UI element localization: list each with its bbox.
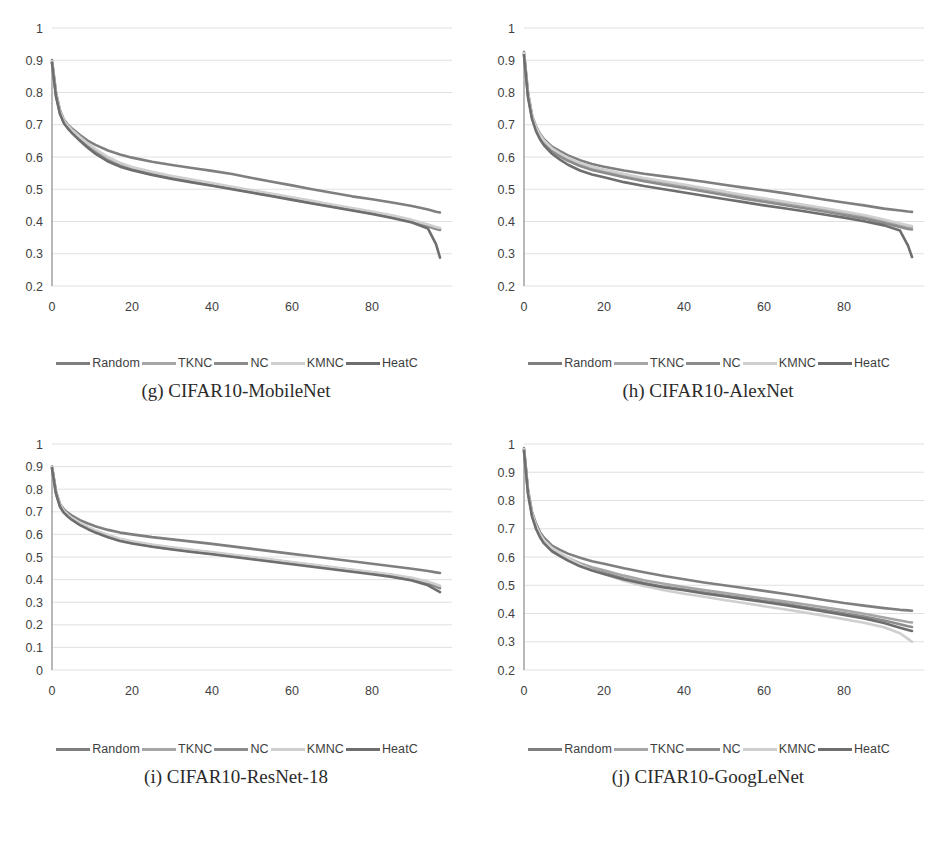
legend-item-kmnc[interactable]: KMNC — [269, 356, 344, 370]
x-tick-label: 20 — [125, 300, 139, 314]
y-tick-label: 0.2 — [26, 618, 43, 632]
legend-label: NC — [722, 356, 740, 370]
x-tick-label: 80 — [837, 684, 851, 698]
x-tick-label: 60 — [757, 684, 771, 698]
legend-item-heatc[interactable]: HeatC — [344, 356, 418, 370]
series-line-kmnc — [524, 53, 912, 226]
chart-panel-j: 0.20.30.40.50.60.70.80.91020406080Random… — [472, 426, 944, 852]
legend-line-swatch — [614, 362, 648, 365]
chart-legend-g: RandomTKNCNCKMNCHeatC — [0, 352, 472, 374]
y-tick-label: 0.7 — [26, 118, 43, 132]
y-tick-label: 0.6 — [498, 551, 515, 565]
legend-label: HeatC — [854, 742, 890, 756]
y-tick-label: 0.1 — [26, 641, 43, 655]
y-tick-label: 0.4 — [498, 215, 515, 229]
x-tick-label: 0 — [521, 684, 528, 698]
legend-item-tknc[interactable]: TKNC — [140, 356, 212, 370]
chart-legend-j: RandomTKNCNCKMNCHeatC — [472, 738, 944, 760]
y-tick-label: 0.2 — [26, 280, 43, 294]
y-tick-label: 0.2 — [498, 664, 515, 678]
legend-line-swatch — [818, 748, 852, 751]
y-tick-label: 0.6 — [26, 151, 43, 165]
x-tick-label: 40 — [677, 300, 691, 314]
legend-line-swatch — [214, 362, 248, 365]
chart-svg-j: 0.20.30.40.50.60.70.80.91020406080 — [472, 426, 944, 738]
chart-panel-h: 0.20.30.40.50.60.70.80.91020406080Random… — [472, 0, 944, 426]
y-tick-label: 0.3 — [26, 247, 43, 261]
legend-label: KMNC — [779, 742, 816, 756]
y-tick-label: 1 — [508, 438, 515, 452]
plot-area-g: 0.20.30.40.50.60.70.80.91020406080 — [0, 0, 472, 350]
y-tick-label: 0.3 — [26, 596, 43, 610]
y-tick-label: 0.9 — [26, 460, 43, 474]
y-tick-label: 0.7 — [498, 118, 515, 132]
series-line-heatc — [524, 55, 912, 257]
x-tick-label: 60 — [285, 300, 299, 314]
chart-panel-i: 00.10.20.30.40.50.60.70.80.91020406080Ra… — [0, 426, 472, 852]
figure-grid: 0.20.30.40.50.60.70.80.91020406080Random… — [0, 0, 944, 852]
legend-item-tknc[interactable]: TKNC — [612, 356, 684, 370]
legend-label: KMNC — [307, 742, 344, 756]
legend-item-nc[interactable]: NC — [684, 356, 740, 370]
x-tick-label: 80 — [365, 684, 379, 698]
y-tick-label: 0.4 — [498, 607, 515, 621]
legend-line-swatch — [528, 362, 562, 365]
legend-item-tknc[interactable]: TKNC — [140, 742, 212, 756]
chart-legend-h: RandomTKNCNCKMNCHeatC — [472, 352, 944, 374]
legend-line-swatch — [56, 362, 90, 365]
legend-line-swatch — [214, 748, 248, 751]
legend-label: Random — [92, 742, 140, 756]
legend-label: NC — [250, 356, 268, 370]
y-tick-label: 0.4 — [26, 215, 43, 229]
legend-item-nc[interactable]: NC — [212, 742, 268, 756]
gridlines: 0.20.30.40.50.60.70.80.91 — [26, 22, 452, 294]
series-group — [52, 467, 440, 592]
chart-legend-i: RandomTKNCNCKMNCHeatC — [0, 738, 472, 760]
plot-area-j: 0.20.30.40.50.60.70.80.91020406080 — [472, 426, 944, 738]
legend-line-swatch — [56, 748, 90, 751]
legend-item-heatc[interactable]: HeatC — [816, 356, 890, 370]
legend-item-kmnc[interactable]: KMNC — [741, 742, 816, 756]
legend-item-tknc[interactable]: TKNC — [612, 742, 684, 756]
legend-item-random[interactable]: Random — [54, 356, 140, 370]
series-line-nc — [524, 450, 912, 627]
legend-item-kmnc[interactable]: KMNC — [741, 356, 816, 370]
legend-label: KMNC — [779, 356, 816, 370]
legend-line-swatch — [614, 748, 648, 751]
y-tick-label: 0.6 — [498, 151, 515, 165]
legend-item-kmnc[interactable]: KMNC — [269, 742, 344, 756]
y-tick-label: 0.7 — [26, 505, 43, 519]
x-tick-label: 40 — [205, 300, 219, 314]
panel-caption-h: (h) CIFAR10-AlexNet — [472, 380, 944, 402]
legend-item-nc[interactable]: NC — [684, 742, 740, 756]
plot-area-i: 00.10.20.30.40.50.60.70.80.91020406080 — [0, 426, 472, 738]
legend-label: Random — [564, 742, 612, 756]
legend-item-heatc[interactable]: HeatC — [816, 742, 890, 756]
series-group — [524, 52, 912, 257]
legend-line-swatch — [686, 362, 720, 365]
y-tick-label: 0.6 — [26, 528, 43, 542]
legend-line-swatch — [528, 748, 562, 751]
legend-line-swatch — [346, 748, 380, 751]
y-tick-label: 0.9 — [26, 54, 43, 68]
y-tick-label: 0.5 — [498, 183, 515, 197]
legend-line-swatch — [346, 362, 380, 365]
y-tick-label: 0.7 — [498, 522, 515, 536]
y-tick-label: 0.8 — [498, 494, 515, 508]
legend-label: HeatC — [854, 356, 890, 370]
series-line-kmnc — [52, 467, 440, 586]
x-tick-label: 0 — [49, 300, 56, 314]
legend-label: TKNC — [650, 742, 684, 756]
legend-item-heatc[interactable]: HeatC — [344, 742, 418, 756]
y-tick-label: 0.5 — [26, 183, 43, 197]
x-axis-ticks: 020406080 — [521, 684, 851, 698]
series-line-kmnc — [52, 61, 440, 228]
legend-item-random[interactable]: Random — [54, 742, 140, 756]
y-tick-label: 0.3 — [498, 635, 515, 649]
legend-label: TKNC — [650, 356, 684, 370]
series-line-random — [524, 52, 912, 212]
legend-item-nc[interactable]: NC — [212, 356, 268, 370]
legend-label: HeatC — [382, 742, 418, 756]
legend-item-random[interactable]: Random — [526, 356, 612, 370]
legend-item-random[interactable]: Random — [526, 742, 612, 756]
